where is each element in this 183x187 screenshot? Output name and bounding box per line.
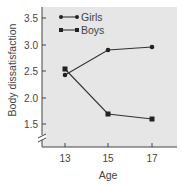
square-marker-icon	[59, 28, 63, 32]
square-marker-icon	[75, 28, 79, 32]
x-tick-label: 17	[146, 153, 158, 164]
y-tick-label: 2.0	[24, 93, 38, 104]
line-chart: 3.5 3.0 2.5 2.0 1.5 13 15 17 Age Body di…	[0, 0, 183, 187]
y-tick-label: 1.5	[24, 119, 38, 130]
circle-marker-icon	[106, 48, 111, 53]
circle-marker-icon	[63, 73, 68, 78]
y-tick-label: 2.5	[24, 66, 38, 77]
square-marker-icon	[150, 117, 155, 122]
square-marker-icon	[63, 67, 68, 72]
square-marker-icon	[106, 112, 111, 117]
x-tick-label: 15	[102, 153, 114, 164]
y-tick-label: 3.5	[24, 13, 38, 24]
circle-marker-icon	[75, 15, 79, 19]
circle-marker-icon	[150, 45, 155, 50]
y-axis-title: Body dissatisfaction	[6, 23, 18, 116]
legend-label-boys: Boys	[81, 24, 104, 36]
circle-marker-icon	[59, 15, 63, 19]
legend-label-girls: Girls	[81, 11, 103, 23]
x-axis-title: Age	[99, 169, 118, 181]
x-tick-label: 13	[59, 153, 71, 164]
y-tick-label: 3.0	[24, 40, 38, 51]
